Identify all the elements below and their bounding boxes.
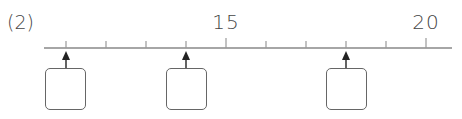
arrow-up-icon <box>342 51 350 60</box>
number-line-diagram: (2) 15 20 <box>0 0 462 119</box>
arrow-up-icon <box>62 51 70 60</box>
arrow-14 <box>182 51 190 68</box>
tick-marks <box>66 38 426 48</box>
answer-box-2[interactable] <box>166 68 207 110</box>
arrow-18 <box>342 51 350 68</box>
answer-box-3[interactable] <box>326 68 367 110</box>
arrow-up-icon <box>182 51 190 60</box>
arrow-11 <box>62 51 70 68</box>
answer-box-1[interactable] <box>45 68 86 110</box>
